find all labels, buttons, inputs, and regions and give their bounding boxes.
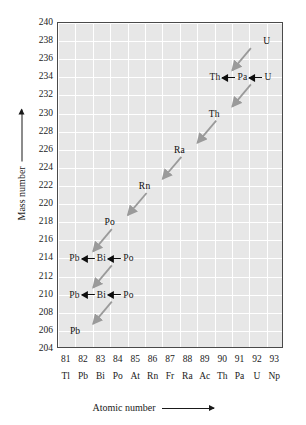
- x-axis-tick-number: 89: [200, 354, 210, 364]
- x-axis-tick-symbol: Po: [113, 371, 123, 381]
- x-axis-title: Atomic number: [0, 402, 306, 413]
- y-axis-tick-label: 234: [0, 71, 53, 81]
- nuclide-label: Po: [123, 290, 133, 300]
- y-axis-tick-label: 230: [0, 108, 53, 118]
- x-axis-tick-number: 88: [183, 354, 193, 364]
- y-axis-tick-label: 222: [0, 180, 53, 190]
- alpha-decay-arrow: [93, 302, 112, 324]
- nuclide-label: Po: [123, 253, 133, 263]
- y-axis-tick-label: 224: [0, 162, 53, 172]
- beta-decay-arrow-left-icon: [249, 77, 262, 79]
- y-axis-tick-label: 216: [0, 234, 53, 244]
- x-axis-tick-symbol: Pa: [235, 371, 245, 381]
- x-axis-tick-number: 91: [235, 354, 245, 364]
- nuclide-label: Po: [105, 217, 115, 227]
- nuclide-label: Th: [209, 109, 220, 119]
- decay-series-chart: Mass number 2042062082102122142162182202…: [0, 0, 306, 425]
- nuclide-label: U: [263, 36, 270, 46]
- nuclide-label: Pb: [70, 326, 80, 336]
- alpha-decay-arrow: [93, 229, 112, 251]
- x-axis-tick-number: 87: [165, 354, 175, 364]
- y-axis-tick-label: 240: [0, 17, 53, 27]
- x-axis-tick-symbol: Fr: [166, 371, 174, 381]
- x-axis-tick-symbol: Rn: [147, 371, 158, 381]
- x-axis-tick-symbol: At: [130, 371, 140, 381]
- beta-decay-chain: PbBiPo: [69, 253, 133, 263]
- x-axis-tick-number: 85: [130, 354, 140, 364]
- y-axis-tick-label: 220: [0, 198, 53, 208]
- y-axis-tick-label: 214: [0, 252, 53, 262]
- nuclide-label: Pa: [237, 72, 247, 82]
- beta-decay-arrow-left-icon: [108, 294, 121, 296]
- alpha-decay-arrow: [93, 265, 112, 287]
- nuclide-label: U: [264, 72, 271, 82]
- x-axis-tick-symbol: Ra: [182, 371, 193, 381]
- alpha-decay-arrow: [232, 84, 251, 106]
- beta-decay-arrow-left-icon: [222, 77, 235, 79]
- x-axis-tick-number: 86: [148, 354, 158, 364]
- x-axis-tick-symbol: Th: [217, 371, 228, 381]
- y-axis-title-text: Mass number: [16, 166, 27, 220]
- nuclide-label: Th: [210, 72, 221, 82]
- y-axis-tick-label: 218: [0, 216, 53, 226]
- nuclide-label: Bi: [97, 290, 106, 300]
- y-axis-tick-label: 208: [0, 307, 53, 317]
- beta-decay-arrow-left-icon: [82, 258, 95, 260]
- y-axis-tick-label: 226: [0, 144, 53, 154]
- x-axis-title-text: Atomic number: [92, 402, 155, 413]
- y-axis-tick-label: 228: [0, 126, 53, 136]
- nuclide-label: Pb: [69, 253, 79, 263]
- y-axis-tick-label: 236: [0, 53, 53, 63]
- nuclide-label: Pb: [69, 290, 79, 300]
- x-axis-arrow-icon: [162, 408, 214, 409]
- nuclide-label: Rn: [139, 181, 151, 191]
- x-axis-tick-symbol: Np: [268, 371, 280, 381]
- x-axis-tick-number: 92: [252, 354, 262, 364]
- x-axis-tick-symbol: Bi: [96, 371, 105, 381]
- nuclide-label: Ra: [174, 145, 185, 155]
- alpha-decay-arrow: [232, 48, 251, 70]
- y-axis-tick-label: 206: [0, 325, 53, 335]
- x-axis-tick-number: 84: [113, 354, 123, 364]
- alpha-decay-arrow: [163, 157, 182, 179]
- x-axis-tick-symbol: U: [253, 371, 260, 381]
- x-axis-tick-number: 83: [96, 354, 106, 364]
- x-axis-tick-symbol: Pb: [78, 371, 88, 381]
- y-axis-tick-label: 212: [0, 271, 53, 281]
- beta-decay-arrow-left-icon: [82, 294, 95, 296]
- alpha-decay-arrow: [128, 193, 147, 215]
- y-axis-tick-label: 232: [0, 89, 53, 99]
- plot-area: ThPaUPbBiPoPbBiPoUThRaRnPoPb: [57, 22, 283, 348]
- y-axis-tick-label: 204: [0, 343, 53, 353]
- y-axis-tick-label: 238: [0, 35, 53, 45]
- alpha-decay-arrow: [197, 121, 216, 143]
- nuclide-label: Bi: [97, 253, 106, 263]
- beta-decay-arrow-left-icon: [108, 258, 121, 260]
- x-axis-tick-number: 93: [270, 354, 280, 364]
- x-axis-tick-number: 90: [217, 354, 227, 364]
- beta-decay-chain: PbBiPo: [69, 290, 133, 300]
- y-axis-tick-label: 210: [0, 289, 53, 299]
- beta-decay-chain: ThPaU: [210, 72, 272, 82]
- x-axis-tick-number: 82: [78, 354, 88, 364]
- x-axis-tick-symbol: Ac: [199, 371, 210, 381]
- x-axis-tick-symbol: Tl: [61, 371, 69, 381]
- x-axis-tick-number: 81: [61, 354, 71, 364]
